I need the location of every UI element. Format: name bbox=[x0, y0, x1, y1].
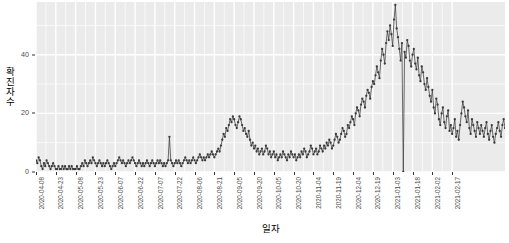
x-tick-label: 2021-02-17 bbox=[455, 177, 461, 209]
x-tick-label: 2021-01-18 bbox=[415, 177, 421, 209]
y-tick-mark bbox=[32, 54, 35, 55]
covid-case-chart: 확진자수 02040 2020-04-082020-04-232020-05-0… bbox=[0, 0, 509, 243]
plot-panel bbox=[36, 2, 505, 172]
x-axis-title: 일자 bbox=[36, 221, 505, 235]
x-tick-mark bbox=[452, 172, 453, 175]
data-series-line bbox=[36, 2, 505, 172]
y-tick-mark bbox=[32, 172, 35, 173]
x-tick-label: 2021-01-03 bbox=[395, 177, 401, 209]
x-tick-label: 2020-11-19 bbox=[336, 177, 342, 209]
x-tick-mark bbox=[234, 172, 235, 175]
x-tick-label: 2020-06-07 bbox=[118, 177, 124, 209]
x-tick-label: 2020-04-23 bbox=[58, 177, 64, 209]
x-tick-label: 2020-08-21 bbox=[217, 177, 223, 209]
y-tick-label: 20 bbox=[21, 110, 29, 117]
x-tick-mark bbox=[313, 172, 314, 175]
x-tick-label: 2020-12-19 bbox=[375, 177, 381, 209]
y-tick-label: 40 bbox=[21, 51, 29, 58]
x-tick-mark bbox=[214, 172, 215, 175]
y-axis-ticks: 02040 bbox=[0, 2, 36, 172]
x-tick-mark bbox=[36, 172, 37, 175]
x-tick-mark bbox=[115, 172, 116, 175]
x-tick-mark bbox=[333, 172, 334, 175]
x-tick-label: 2020-09-05 bbox=[237, 177, 243, 209]
x-tick-label: 2020-08-06 bbox=[197, 177, 203, 209]
x-tick-label: 2020-12-04 bbox=[356, 177, 362, 209]
x-tick-label: 2020-07-07 bbox=[158, 177, 164, 209]
y-tick-label: 0 bbox=[25, 168, 29, 175]
x-tick-mark bbox=[95, 172, 96, 175]
x-tick-label: 2020-10-05 bbox=[276, 177, 282, 209]
x-tick-label: 2020-10-20 bbox=[296, 177, 302, 209]
x-tick-mark bbox=[254, 172, 255, 175]
x-axis-ticks: 2020-04-082020-04-232020-05-082020-05-23… bbox=[36, 172, 505, 218]
x-tick-mark bbox=[155, 172, 156, 175]
x-tick-mark bbox=[274, 172, 275, 175]
x-tick-label: 2020-09-20 bbox=[257, 177, 263, 209]
x-tick-mark bbox=[393, 172, 394, 175]
x-tick-label: 2020-05-23 bbox=[98, 177, 104, 209]
x-tick-label: 2020-11-04 bbox=[316, 177, 322, 209]
x-tick-mark bbox=[413, 172, 414, 175]
x-tick-mark bbox=[432, 172, 433, 175]
x-tick-label: 2020-07-22 bbox=[177, 177, 183, 209]
x-tick-mark bbox=[353, 172, 354, 175]
x-tick-mark bbox=[56, 172, 57, 175]
x-tick-label: 2020-05-08 bbox=[78, 177, 84, 209]
x-tick-mark bbox=[76, 172, 77, 175]
x-tick-mark bbox=[294, 172, 295, 175]
x-tick-mark bbox=[373, 172, 374, 175]
x-tick-label: 2020-06-22 bbox=[138, 177, 144, 209]
x-tick-label: 2020-04-08 bbox=[39, 177, 45, 209]
x-tick-mark bbox=[195, 172, 196, 175]
y-tick-mark bbox=[32, 113, 35, 114]
x-tick-mark bbox=[175, 172, 176, 175]
x-tick-mark bbox=[135, 172, 136, 175]
x-tick-label: 2021-02-02 bbox=[435, 177, 441, 209]
